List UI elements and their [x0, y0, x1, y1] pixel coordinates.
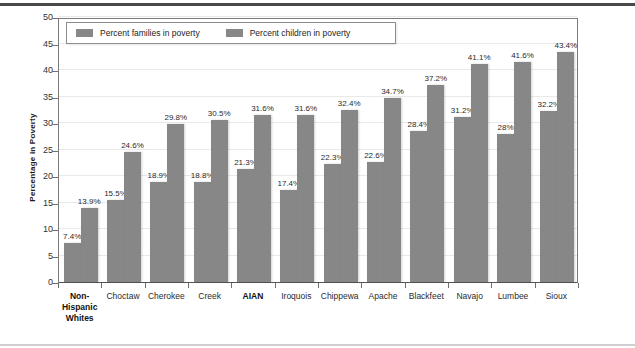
x-axis-category-label: Chippewa [318, 291, 361, 302]
x-axis-label-line: Sioux [535, 291, 578, 302]
bar-children[interactable] [81, 208, 98, 282]
x-axis-label-line: AIAN [231, 291, 274, 302]
bar-children[interactable] [557, 52, 574, 282]
bar-chart-figure: Percentage in Poverty 051015202530354045… [0, 8, 635, 344]
x-axis-tick-mark [448, 283, 449, 288]
legend-swatch-children [226, 29, 243, 37]
bar-group: 22.6%34.7% [362, 19, 405, 282]
x-axis-category-label: Lumbee [491, 291, 534, 302]
bar-group: 28%41.6% [492, 19, 535, 282]
bar-group: 32.2%43.4% [536, 19, 579, 282]
bar-families[interactable] [497, 134, 514, 282]
bar-group: 15.5%24.6% [102, 19, 145, 282]
bar-children[interactable] [341, 110, 358, 282]
bar-families[interactable] [540, 111, 557, 282]
x-axis-label-line: Creek [188, 291, 231, 302]
x-axis-tick-mark [58, 283, 59, 288]
bar-families[interactable] [410, 131, 427, 282]
bar-value-label: 24.6% [116, 142, 149, 150]
bar-group: 22.3%32.4% [319, 19, 362, 282]
y-axis-tick-label: 5 [0, 252, 53, 261]
bar-families[interactable] [280, 190, 297, 282]
x-axis-tick-mark [578, 283, 579, 288]
bar-group: 7.4%13.9% [59, 19, 102, 282]
bar-value-label: 31.6% [246, 105, 279, 113]
x-axis-category-label: Iroquois [275, 291, 318, 302]
bar-children[interactable] [471, 64, 488, 282]
x-axis-tick-mark [145, 283, 146, 288]
plot-area: 7.4%13.9%15.5%24.6%18.9%29.8%18.8%30.5%2… [58, 18, 578, 283]
x-axis-label-line: Lumbee [491, 291, 534, 302]
bar-children[interactable] [427, 85, 444, 282]
bar-value-label: 30.5% [203, 110, 236, 118]
bar-group: 17.4%31.6% [276, 19, 319, 282]
bottom-divider-rule [0, 344, 635, 346]
bar-families[interactable] [64, 243, 81, 282]
chart-legend: Percent families in poverty Percent chil… [66, 22, 396, 44]
bar-families[interactable] [194, 182, 211, 282]
y-axis-tick-label: 0 [0, 278, 53, 287]
y-axis-tick-label: 10 [0, 225, 53, 234]
bar-children[interactable] [254, 115, 271, 282]
x-axis-label-line: Navajo [448, 291, 491, 302]
bar-value-label: 34.7% [376, 88, 409, 96]
bar-families[interactable] [237, 169, 254, 282]
x-axis-tick-mark [318, 283, 319, 288]
x-axis-category-label: Apache [361, 291, 404, 302]
x-axis-label-line: Choctaw [101, 291, 144, 302]
x-axis-category-label: Choctaw [101, 291, 144, 302]
y-axis-tick-label: 40 [0, 66, 53, 75]
bar-value-label: 37.2% [419, 75, 452, 83]
bar-families[interactable] [454, 117, 471, 282]
bar-families[interactable] [150, 182, 167, 282]
bar-children[interactable] [124, 152, 141, 282]
x-axis-category-label: AIAN [231, 291, 274, 302]
top-divider-rule [0, 3, 635, 6]
bar-group: 18.9%29.8% [146, 19, 189, 282]
x-axis-category-label: Non-HispanicWhites [58, 291, 101, 324]
x-axis-tick-mark [231, 283, 232, 288]
x-axis-tick-mark [405, 283, 406, 288]
bar-children[interactable] [211, 120, 228, 282]
x-axis-category-label: Creek [188, 291, 231, 302]
bar-value-label: 32.4% [333, 100, 366, 108]
x-axis-category-label: Navajo [448, 291, 491, 302]
bar-group: 21.3%31.6% [232, 19, 275, 282]
legend-label-children: Percent children in poverty [250, 28, 351, 38]
x-axis-label-line: Hispanic [58, 302, 101, 313]
legend-label-families: Percent families in poverty [100, 28, 200, 38]
bar-value-label: 41.6% [506, 52, 539, 60]
bar-value-label: 29.8% [159, 114, 192, 122]
y-axis-title: Percentage in Poverty [28, 78, 37, 238]
x-axis-tick-mark [101, 283, 102, 288]
x-axis-category-label: Blackfeet [405, 291, 448, 302]
x-axis-tick-mark [535, 283, 536, 288]
bar-value-label: 41.1% [463, 54, 496, 62]
bar-children[interactable] [297, 115, 314, 282]
bar-group: 18.8%30.5% [189, 19, 232, 282]
bar-value-label: 31.6% [289, 105, 322, 113]
bar-children[interactable] [514, 62, 531, 282]
y-axis-tick-label: 15 [0, 199, 53, 208]
bar-children[interactable] [384, 98, 401, 282]
x-axis-label-line: Chippewa [318, 291, 361, 302]
bar-families[interactable] [367, 162, 384, 282]
bar-families[interactable] [107, 200, 124, 282]
x-axis-label-line: Cherokee [145, 291, 188, 302]
bar-series-layer: 7.4%13.9%15.5%24.6%18.9%29.8%18.8%30.5%2… [59, 19, 577, 282]
bar-group: 31.2%41.1% [449, 19, 492, 282]
bar-value-label: 43.4% [549, 42, 582, 50]
x-axis-label-line: Apache [361, 291, 404, 302]
x-axis-label-line: Iroquois [275, 291, 318, 302]
x-axis-label-line: Non- [58, 291, 101, 302]
x-axis-tick-mark [188, 283, 189, 288]
y-axis-tick-label: 35 [0, 93, 53, 102]
x-axis-category-label: Sioux [535, 291, 578, 302]
x-axis-category-label: Cherokee [145, 291, 188, 302]
x-axis: Non-HispanicWhitesChoctawCherokeeCreekAI… [58, 283, 578, 343]
y-axis-tick-label: 50 [0, 13, 53, 22]
legend-entry-children: Percent children in poverty [226, 28, 351, 38]
x-axis-tick-mark [361, 283, 362, 288]
bar-families[interactable] [324, 164, 341, 282]
bar-children[interactable] [167, 124, 184, 282]
